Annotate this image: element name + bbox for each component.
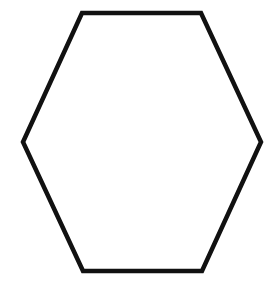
- hexagon-diagram: [0, 0, 275, 284]
- diagram-canvas: [0, 0, 275, 284]
- hexagon-shape: [23, 13, 261, 271]
